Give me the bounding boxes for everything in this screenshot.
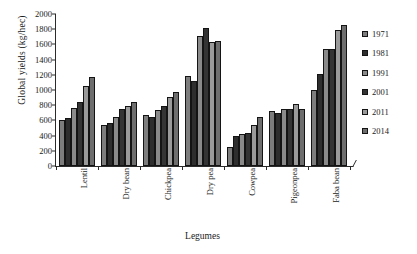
legend-item[interactable]: 1981 (362, 44, 414, 64)
bar (299, 109, 305, 166)
legend-item[interactable]: 1971 (362, 24, 414, 44)
y-tick-mark (52, 90, 56, 91)
legend-label: 2011 (372, 108, 389, 117)
x-category-label: Lentil (79, 168, 89, 188)
y-tick-mark (52, 14, 56, 15)
y-tick-label: 400 (39, 131, 52, 140)
legend-swatch-icon (362, 109, 368, 115)
x-category-label: Dry bean (121, 168, 131, 199)
legend-label: 1981 (372, 49, 389, 58)
y-tick-mark (52, 59, 56, 60)
y-tick-label: 1200 (35, 71, 52, 80)
x-axis-category-labels: LentilDry beanChickpeaDry peaCowpeaPigeo… (55, 168, 350, 226)
x-axis-line (55, 166, 351, 167)
bar (131, 102, 137, 166)
legend-swatch-icon (362, 50, 368, 56)
bar (89, 77, 95, 166)
x-category-label: Chickpea (163, 168, 173, 200)
legend-swatch-icon (362, 70, 368, 76)
x-category-label: Cowpea (247, 168, 257, 196)
y-tick-mark (52, 44, 56, 45)
bar-groups (56, 14, 350, 166)
legend-label: 1991 (372, 69, 389, 78)
legend-item[interactable]: 2014 (362, 122, 414, 142)
bar-group (311, 14, 347, 166)
bar (257, 117, 263, 166)
y-tick-label: 1400 (35, 55, 52, 64)
bar-chart-figure: Global yields (kg/hec) 02004006008001000… (0, 0, 417, 254)
bar-group (59, 14, 95, 166)
y-tick-mark (52, 105, 56, 106)
x-category-label: Faba bean (331, 168, 341, 203)
y-tick-label: 1800 (35, 25, 52, 34)
legend: 197119811991200120112014 (362, 24, 414, 141)
legend-label: 1971 (372, 30, 389, 39)
y-tick-label: 1600 (35, 40, 52, 49)
plot-area (55, 14, 350, 166)
y-tick-label: 2000 (35, 10, 52, 19)
legend-swatch-icon (362, 89, 368, 95)
legend-item[interactable]: 2001 (362, 83, 414, 103)
y-axis-tick-labels: 0200400600800100012001400160018002000 (22, 14, 52, 166)
x-tick-mark (350, 166, 351, 170)
bar (215, 41, 221, 166)
bar-group (227, 14, 263, 166)
legend-label: 2014 (372, 127, 389, 136)
y-tick-label: 1000 (35, 86, 52, 95)
bar-group (269, 14, 305, 166)
y-tick-mark (52, 120, 56, 121)
y-tick-label: 600 (39, 116, 52, 125)
bar (341, 25, 347, 166)
y-tick-label: 200 (39, 147, 52, 156)
y-tick-label: 800 (39, 101, 52, 110)
bar-group (185, 14, 221, 166)
bar-group (101, 14, 137, 166)
legend-item[interactable]: 1991 (362, 63, 414, 83)
y-tick-mark (52, 135, 56, 136)
bar-group (143, 14, 179, 166)
x-axis-title: Legumes (55, 231, 350, 241)
x-category-label: Dry pea (205, 168, 215, 195)
y-tick-mark (52, 150, 56, 151)
y-tick-mark (52, 74, 56, 75)
y-tick-mark (52, 29, 56, 30)
x-category-label: Pigeonpea (289, 168, 299, 203)
legend-item[interactable]: 2011 (362, 102, 414, 122)
legend-swatch-icon (362, 31, 368, 37)
legend-swatch-icon (362, 128, 368, 134)
legend-label: 2001 (372, 88, 389, 97)
bar (173, 92, 179, 166)
